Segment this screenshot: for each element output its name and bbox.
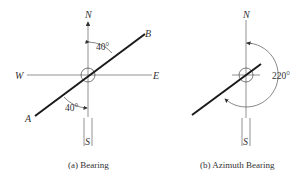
label-south: S — [243, 136, 248, 147]
figure-azimuth-bearing: N S 220° (b) Azimuth Bearing — [192, 9, 290, 170]
caption-azimuth-bearing: (b) Azimuth Bearing — [200, 160, 275, 170]
label-point-a: A — [24, 113, 32, 124]
label-north: N — [84, 9, 93, 20]
label-south: S — [85, 136, 90, 147]
label-west: W — [15, 70, 25, 81]
figure-bearing: N S W E B A 40° 40° (a) Bearing — [15, 9, 159, 170]
label-east: E — [152, 70, 159, 81]
bearing-diagrams: N S W E B A 40° 40° (a) Bearing N S 220°… — [0, 0, 306, 177]
label-point-b: B — [145, 28, 151, 39]
label-north: N — [242, 9, 251, 20]
angle-label-sa: 40° — [65, 103, 79, 113]
angle-label-nb: 40° — [96, 42, 110, 52]
azimuth-line — [192, 64, 261, 115]
caption-bearing: (a) Bearing — [68, 160, 109, 170]
angle-label-azimuth: 220° — [272, 71, 290, 81]
